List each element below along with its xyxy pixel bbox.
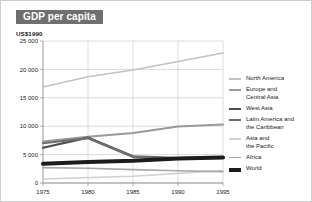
- legend-color-swatch: [229, 78, 241, 80]
- legend-item-label: West Asia: [246, 105, 273, 113]
- legend-color-swatch: [229, 108, 241, 110]
- legend-item[interactable]: World: [229, 165, 311, 173]
- x-tick-label: 1975: [36, 189, 50, 195]
- legend-color-swatch: [229, 119, 241, 121]
- legend-color-swatch: [229, 168, 241, 172]
- legend-item[interactable]: West Asia: [229, 105, 311, 113]
- x-tick-label: 1995: [216, 189, 230, 195]
- legend-item-label: Europe and Central Asia: [246, 86, 278, 101]
- legend-item[interactable]: Asia and the Pacific: [229, 135, 311, 150]
- legend-color-swatch: [229, 89, 241, 91]
- x-tick-label: 1990: [171, 189, 185, 195]
- legend-item[interactable]: Europe and Central Asia: [229, 86, 311, 101]
- legend-item[interactable]: Africa: [229, 154, 311, 162]
- legend-item-label: World: [246, 165, 262, 173]
- legend-color-swatch: [229, 138, 241, 140]
- legend-item-label: Africa: [246, 154, 261, 162]
- x-tick-label: 1980: [81, 189, 95, 195]
- y-tick-label: 5 000: [23, 152, 39, 158]
- y-tick-label: 10 000: [20, 123, 39, 129]
- y-tick-label: 25 000: [20, 38, 39, 44]
- y-tick-label: 20 000: [20, 67, 39, 73]
- y-tick-label: 0: [35, 180, 39, 186]
- x-tick-label: 1985: [126, 189, 140, 195]
- legend-color-swatch: [229, 157, 241, 159]
- y-tick-label: 15 000: [20, 95, 39, 101]
- chart-legend: North AmericaEurope and Central AsiaWest…: [229, 75, 311, 176]
- chart-figure: GDP per capita US$1990 05 00010 00015 00…: [0, 0, 312, 202]
- legend-item-label: North America: [246, 75, 284, 83]
- legend-item-label: Asia and the Pacific: [246, 135, 274, 150]
- legend-item[interactable]: North America: [229, 75, 311, 83]
- legend-item[interactable]: Latin America and the Caribbean: [229, 116, 311, 131]
- legend-item-label: Latin America and the Caribbean: [246, 116, 294, 131]
